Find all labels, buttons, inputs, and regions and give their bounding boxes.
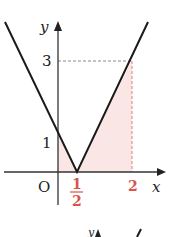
x-axis-arrow-icon <box>157 168 166 176</box>
next-figure-y-label: y <box>87 226 95 237</box>
y-axis-arrow-icon <box>54 21 62 31</box>
tick-label-y3: 3 <box>42 52 52 70</box>
next-figure-curve-fragment <box>137 229 141 237</box>
tick-label-x-half-numerator: 1 <box>72 176 82 192</box>
tick-label-y1: 1 <box>42 134 52 152</box>
x-axis-label: x <box>152 178 161 196</box>
y-axis-label: y <box>39 18 49 36</box>
tick-label-x2: 2 <box>128 178 138 194</box>
next-figure-arrow-icon <box>95 229 101 237</box>
tick-label-x-half-denominator: 2 <box>72 193 82 209</box>
origin-label: O <box>38 178 50 196</box>
graph-figure: y x O 3 1 1 2 2 y <box>0 0 171 237</box>
